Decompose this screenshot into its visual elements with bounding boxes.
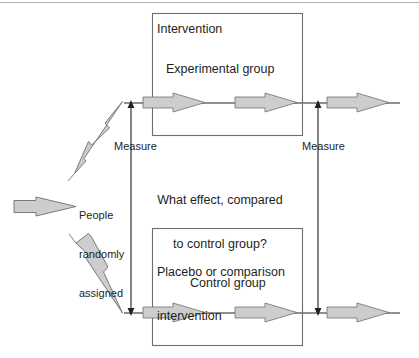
top-arrow-3 — [327, 93, 389, 112]
experimental-group-label: Experimental group — [166, 62, 274, 77]
measure-arrow-right — [315, 100, 322, 316]
top-arrow-2 — [235, 93, 297, 112]
effect-question-line-1: What effect, compared — [156, 193, 284, 208]
randomization-label-line-2: randomly — [79, 248, 124, 261]
rct-diagram-figure: Intervention Experimental group Placebo … — [0, 0, 419, 358]
measure-arrow-left — [128, 100, 135, 316]
randomization-label-line-1: People — [79, 209, 124, 222]
randomize-tail-up — [68, 174, 75, 182]
control-box-heading-line-2: intervention — [157, 309, 285, 324]
experimental-box-heading: Intervention — [157, 22, 222, 37]
effect-question-line-2: to control group? — [156, 237, 284, 252]
randomize-arrow-up — [75, 102, 123, 174]
randomization-label: People randomly assigned — [79, 183, 124, 326]
bottom-arrow-3 — [327, 303, 389, 322]
randomization-label-line-3: assigned — [79, 287, 124, 300]
measure-label-right: Measure — [302, 140, 345, 153]
effect-question-label: What effect, compared to control group? — [156, 163, 284, 281]
measure-label-left: Measure — [114, 140, 157, 153]
entry-arrow — [14, 197, 76, 216]
randomize-tail-down — [69, 234, 76, 243]
